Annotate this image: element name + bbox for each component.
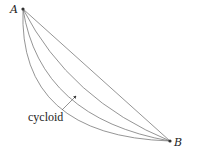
point-b-dot bbox=[168, 139, 171, 142]
brachistochrone-diagram: A B cycloid bbox=[0, 0, 199, 156]
point-a-dot bbox=[21, 7, 24, 10]
cycloid-arrow bbox=[62, 96, 76, 110]
point-b-label: B bbox=[173, 136, 182, 149]
cycloid-label: cycloid bbox=[28, 110, 63, 124]
point-a-label: A bbox=[9, 3, 18, 16]
